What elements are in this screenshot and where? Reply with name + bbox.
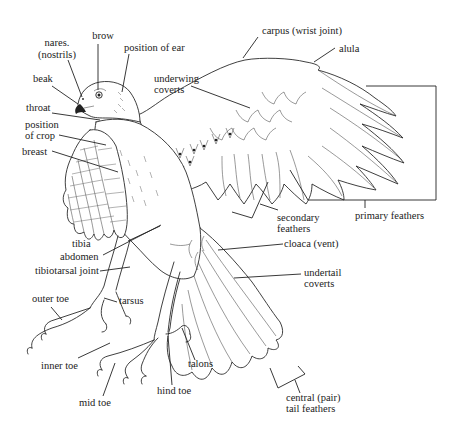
hawk-illustration [27, 58, 404, 384]
label-cloaca: cloaca (vent) [284, 238, 339, 250]
label-position-of-crop: positionof crop [25, 119, 60, 141]
label-outer-toe: outer toe [32, 293, 69, 304]
label-carpus: carpus (wrist joint) [262, 25, 342, 37]
label-undertail-coverts: undertailcoverts [304, 267, 341, 289]
label-primary-feathers: primary feathers [355, 210, 424, 221]
label-position-of-ear: position of ear [124, 42, 185, 53]
label-talons: talons [188, 358, 213, 369]
label-mid-toe: mid toe [79, 397, 111, 408]
label-tibiotarsal-joint: tibiotarsal joint [35, 265, 99, 276]
label-secondary-feathers: secondaryfeathers [277, 212, 320, 234]
label-brow: brow [92, 30, 114, 41]
label-throat: throat [26, 102, 51, 113]
head [75, 81, 140, 122]
hawk-anatomy-diagram: nares.(nostrils) brow position of ear be… [0, 0, 460, 435]
label-inner-toe: inner toe [41, 360, 78, 371]
label-tarsus: tarsus [119, 295, 144, 306]
label-breast: breast [22, 146, 47, 157]
label-abdomen: abdomen [60, 251, 99, 262]
label-nares: nares.(nostrils) [38, 37, 76, 61]
label-alula: alula [339, 43, 360, 54]
label-tibia: tibia [72, 238, 91, 249]
label-beak: beak [33, 73, 54, 84]
talons-marks [27, 316, 191, 384]
label-hind-toe: hind toe [157, 385, 191, 396]
label-central-tail-feathers: central (pair)tail feathers [286, 392, 341, 414]
